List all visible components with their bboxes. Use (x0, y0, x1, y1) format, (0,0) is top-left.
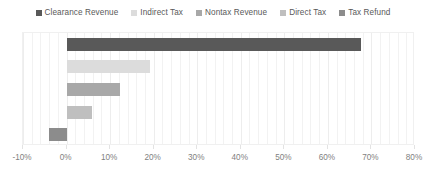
bar[interactable] (49, 128, 66, 141)
legend-swatch-icon (36, 10, 42, 16)
x-tick-mark (240, 145, 241, 149)
x-tick-label: 70% (362, 153, 378, 163)
legend-item-label: Tax Refund (348, 8, 390, 18)
x-tick-mark (109, 145, 110, 149)
x-axis: -10%0%10%20%30%40%50%60%70%80% (22, 145, 414, 174)
x-tick-mark (283, 145, 284, 149)
x-tick-label: 50% (275, 153, 291, 163)
x-tick-mark (22, 145, 23, 149)
x-tick-mark (414, 145, 415, 149)
legend-item[interactable]: Indirect Tax (131, 8, 183, 18)
x-tick-mark (153, 145, 154, 149)
bar[interactable] (67, 60, 151, 73)
legend-item-label: Clearance Revenue (45, 8, 119, 18)
legend-item[interactable]: Tax Refund (339, 8, 390, 18)
legend-item[interactable]: Clearance Revenue (36, 8, 119, 18)
legend-item-label: Direct Tax (289, 8, 326, 18)
legend-swatch-icon (339, 10, 345, 16)
x-tick-label: 30% (188, 153, 204, 163)
x-tick-label: 80% (406, 153, 422, 163)
chart-legend: Clearance RevenueIndirect TaxNontax Reve… (0, 6, 426, 20)
legend-item[interactable]: Direct Tax (280, 8, 326, 18)
x-tick-mark (370, 145, 371, 149)
bar[interactable] (67, 38, 361, 51)
bar-chart: Clearance RevenueIndirect TaxNontax Reve… (0, 0, 426, 174)
legend-item[interactable]: Nontax Revenue (196, 8, 267, 18)
plot-area (22, 32, 414, 145)
x-tick-mark (327, 145, 328, 149)
x-tick-label: 60% (319, 153, 335, 163)
legend-swatch-icon (131, 10, 137, 16)
bar-series-group (23, 33, 413, 144)
x-tick-mark (66, 145, 67, 149)
x-tick-label: 40% (232, 153, 248, 163)
x-tick-label: 10% (101, 153, 117, 163)
bar[interactable] (67, 83, 120, 96)
x-tick-label: 0% (60, 153, 72, 163)
legend-item-label: Indirect Tax (140, 8, 183, 18)
legend-swatch-icon (196, 10, 202, 16)
bar[interactable] (67, 106, 93, 119)
x-tick-mark (196, 145, 197, 149)
x-tick-label: 20% (144, 153, 160, 163)
legend-swatch-icon (280, 10, 286, 16)
legend-item-label: Nontax Revenue (205, 8, 267, 18)
x-tick-label: -10% (12, 153, 31, 163)
